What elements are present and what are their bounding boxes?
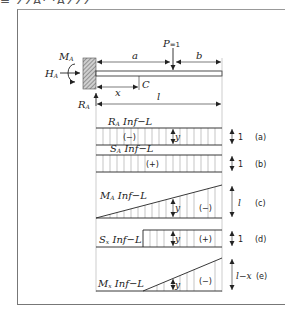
dimension-l-label: l	[157, 91, 160, 102]
influence-line-title: Mx Inf−L	[97, 278, 144, 289]
horizontal-reaction-label: HA	[44, 68, 59, 79]
influence-line-b: (+) SA Inf−L 1 (b)	[96, 143, 266, 172]
case-tag: (b)	[255, 160, 266, 169]
point-load-label: P=1	[162, 38, 180, 49]
ordinate-label: y	[174, 234, 181, 244]
magnitude-label: 1	[238, 235, 243, 244]
magnitude-label: 1	[238, 160, 243, 169]
magnitude-label: l−x	[236, 271, 252, 281]
dimension-b-label: b	[196, 50, 202, 61]
influence-line-diagram: MA HA a b P=1 C x RA l	[0, 0, 285, 334]
beam	[96, 71, 222, 76]
sign-label: (−)	[123, 133, 136, 142]
influence-line-a: y (−) RA Inf−L 1 (a)	[96, 116, 266, 145]
influence-line-title: SA Inf−L	[110, 143, 154, 154]
influence-line-d: y (+) Sx Inf−L 1 (d)	[96, 230, 266, 247]
influence-line-title: RA Inf−L	[107, 116, 153, 127]
moment-label: MA	[58, 51, 74, 62]
magnitude-label: l	[238, 198, 241, 208]
sign-label: (+)	[146, 160, 159, 169]
fixed-wall-support	[83, 58, 96, 89]
vertical-reaction-label: RA	[77, 99, 91, 110]
section-c-label: C	[142, 79, 150, 90]
case-tag: (a)	[255, 133, 266, 142]
influence-line-e: y (−) Mx Inf−L l−x (e)	[96, 258, 267, 291]
sign-label: (+)	[199, 235, 212, 244]
case-tag: (e)	[256, 272, 267, 281]
influence-line-c: y (−) MA Inf−L l (c)	[96, 185, 266, 218]
cantilever-beam-group: MA HA a b P=1 C x RA l	[44, 38, 222, 110]
dimension-a-label: a	[132, 50, 138, 61]
influence-line-title: MA Inf−L	[99, 190, 147, 201]
magnitude-label: 1	[238, 133, 243, 142]
dimension-x-label: x	[115, 87, 121, 98]
ordinate-label: y	[174, 203, 181, 213]
influence-line-title: Sx Inf−L	[99, 234, 142, 245]
case-tag: (d)	[255, 235, 266, 244]
sign-label: (−)	[199, 204, 212, 213]
sign-label: (−)	[199, 277, 212, 286]
ordinate-label: y	[174, 280, 181, 290]
case-tag: (c)	[255, 199, 266, 208]
ordinate-label: y	[174, 132, 181, 142]
